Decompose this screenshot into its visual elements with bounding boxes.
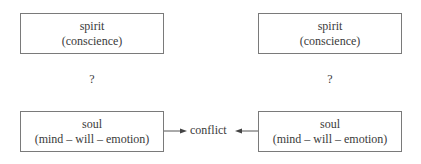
- arrow-left-icon: [235, 129, 258, 134]
- connector-arrows: [0, 0, 421, 164]
- arrow-right-icon: [164, 129, 187, 134]
